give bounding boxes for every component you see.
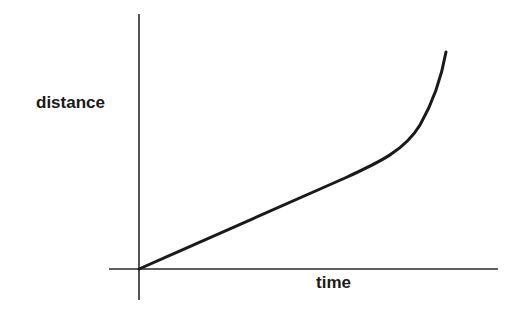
y-axis-label: distance: [36, 93, 105, 113]
distance-time-chart: [0, 0, 531, 314]
x-axis-label: time: [316, 273, 351, 293]
distance-curve: [139, 52, 446, 269]
